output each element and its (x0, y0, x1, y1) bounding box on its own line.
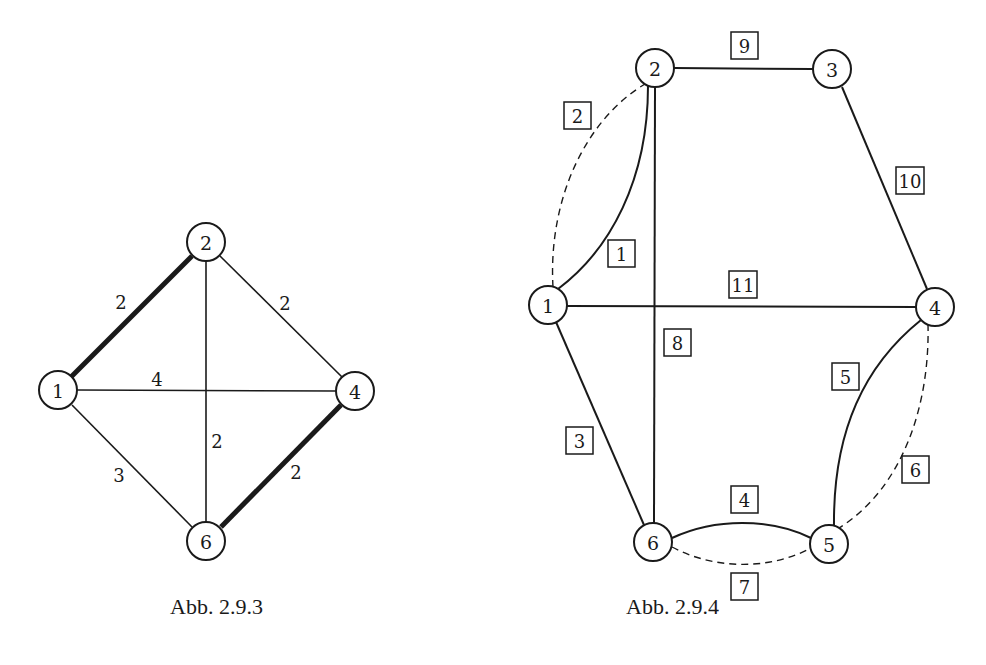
node-2: 2 (187, 223, 225, 261)
edge-label-6: 6 (902, 456, 929, 483)
svg-text:3: 3 (574, 431, 585, 452)
svg-text:6: 6 (200, 531, 212, 553)
node-1: 1 (39, 371, 77, 409)
svg-text:1: 1 (616, 244, 627, 265)
node-6: 6 (187, 522, 225, 560)
edge-3-1-6 (556, 322, 644, 525)
svg-text:5: 5 (823, 534, 835, 556)
edge-label-3: 3 (566, 427, 593, 454)
graph-diagrams: 2 2 4 2 3 2 1 2 4 6 (0, 0, 986, 665)
edge-9-2-3 (674, 68, 813, 69)
svg-text:4: 4 (739, 490, 750, 511)
edge-label-11: 11 (729, 271, 757, 298)
edge-4-6-bold (221, 405, 341, 527)
svg-text:2: 2 (572, 106, 583, 127)
svg-text:2: 2 (649, 58, 661, 80)
weight-2-6: 2 (211, 431, 222, 452)
weight-1-4: 4 (151, 369, 162, 390)
edge-6-4-5-dashed (839, 324, 928, 528)
edge-5-4-5-curve (834, 320, 921, 526)
svg-text:11: 11 (732, 275, 755, 296)
node-6: 6 (634, 523, 672, 561)
node-4: 4 (336, 372, 374, 410)
edge-label-9: 9 (731, 32, 758, 59)
edge-7-6-5-dashed (672, 547, 811, 564)
edge-1-2-bold (70, 256, 192, 378)
edge-label-4: 4 (731, 486, 758, 513)
svg-text:7: 7 (739, 577, 750, 598)
svg-text:3: 3 (826, 59, 838, 81)
edge-label-1: 1 (608, 240, 635, 267)
node-3: 3 (813, 50, 851, 88)
svg-text:4: 4 (349, 381, 361, 403)
svg-text:5: 5 (840, 367, 851, 388)
svg-text:1: 1 (542, 295, 554, 317)
figure-2-9-3: 2 2 4 2 3 2 1 2 4 6 (39, 223, 374, 560)
node-1: 1 (529, 286, 567, 324)
node-2: 2 (636, 49, 674, 87)
svg-text:1: 1 (52, 380, 64, 402)
edge-label-8: 8 (664, 329, 691, 356)
figure-caption-2-9-4: Abb. 2.9.4 (626, 594, 719, 620)
edge-2-4 (220, 256, 342, 377)
svg-text:8: 8 (672, 333, 683, 354)
edge-8-2-6 (654, 87, 655, 523)
edge-label-7: 7 (731, 573, 758, 600)
edge-label-5: 5 (832, 363, 859, 390)
weight-1-2: 2 (115, 292, 126, 313)
svg-text:10: 10 (899, 171, 922, 192)
svg-text:4: 4 (929, 297, 941, 319)
figure-caption-2-9-3: Abb. 2.9.3 (170, 594, 263, 620)
figure-2-9-4: 1 2 3 4 5 6 7 8 (529, 32, 954, 600)
svg-text:6: 6 (647, 532, 659, 554)
svg-text:6: 6 (910, 460, 921, 481)
edge-11-1-4 (567, 306, 916, 307)
svg-text:9: 9 (739, 36, 750, 57)
edge-1-6 (72, 405, 192, 527)
weight-4-6: 2 (290, 462, 301, 483)
weight-2-4: 2 (279, 293, 290, 314)
svg-text:2: 2 (200, 232, 212, 254)
node-5: 5 (810, 525, 848, 563)
edge-4-6-5-curve (672, 523, 811, 538)
edge-label-2: 2 (564, 102, 591, 129)
edge-label-10: 10 (896, 167, 924, 194)
weight-1-6: 3 (113, 465, 124, 486)
node-4: 4 (916, 288, 954, 326)
